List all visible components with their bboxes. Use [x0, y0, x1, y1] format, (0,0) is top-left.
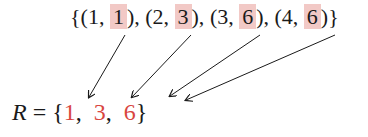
range-variable: R	[12, 99, 27, 125]
equals-sign: =	[27, 99, 53, 125]
range-value-1: 1	[64, 99, 76, 125]
range-value-2: 3	[94, 99, 106, 125]
arrow-1-icon	[89, 35, 125, 97]
arrow-4-icon	[186, 35, 335, 100]
range-close-brace: }	[136, 99, 148, 125]
range-sep-1: ,	[76, 99, 94, 125]
range-set: R = {1, 3, 6}	[12, 95, 147, 129]
range-value-3: 6	[124, 99, 136, 125]
range-sep-2: ,	[106, 99, 124, 125]
range-open-brace: {	[52, 99, 64, 125]
